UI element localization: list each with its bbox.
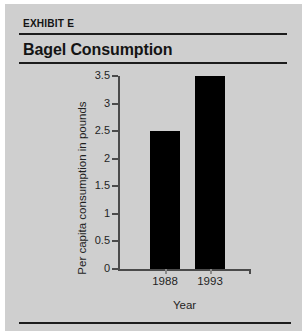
y-axis-tick: [112, 75, 118, 77]
y-axis-title: Per capita consumption in pounds: [76, 98, 88, 278]
exhibit-panel: EXHIBIT E Bagel Consumption 00.511.522.5…: [5, 4, 302, 331]
x-axis-tick: [165, 269, 167, 274]
x-axis-tick-label: 1993: [180, 275, 240, 287]
y-axis-tick: [112, 158, 118, 160]
x-axis-end-tick: [249, 269, 251, 274]
y-axis-tick: [112, 103, 118, 105]
x-axis-line: [118, 269, 251, 271]
y-axis-tick: [112, 213, 118, 215]
bar: [150, 131, 180, 269]
x-axis-tick: [210, 269, 212, 274]
chart-plot-area: 00.511.522.533.5 19881993 Year Per capit…: [5, 4, 302, 331]
bar: [195, 76, 225, 269]
y-axis-tick: [112, 268, 118, 270]
y-axis-tick: [112, 130, 118, 132]
y-axis-tick-label: 3.5: [72, 69, 110, 81]
footer-divider: [19, 322, 291, 324]
x-axis-title: Year: [118, 299, 251, 311]
y-axis-tick: [112, 240, 118, 242]
y-axis-line: [118, 76, 120, 270]
y-axis-tick: [112, 185, 118, 187]
